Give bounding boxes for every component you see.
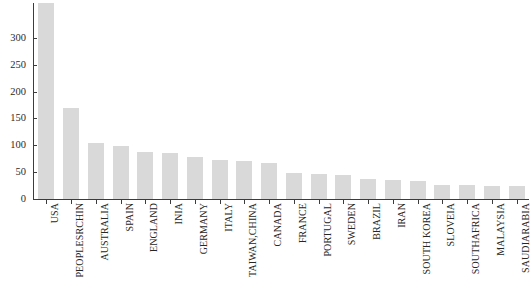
bar-chart-figure: 050100150200250300 USAPEOPLESRCHINAUSTRA… <box>0 0 532 297</box>
bar[interactable] <box>162 153 178 199</box>
bar-rect <box>162 153 178 199</box>
x-axis-label: SLOVEIA <box>446 203 456 246</box>
bar[interactable] <box>434 185 450 199</box>
x-axis-label-text: MALAYSIA <box>496 203 506 256</box>
y-tick-label: 250 <box>10 58 26 71</box>
x-axis-label-text: ITALY <box>224 203 234 232</box>
x-axis-label: TAIWAN,CHINA <box>248 203 258 277</box>
bar[interactable] <box>38 3 54 199</box>
x-axis-label-text: USA <box>50 203 60 223</box>
x-axis-label-text: SPAIN <box>125 203 135 231</box>
x-axis-label-text: SAUDIARABIA <box>521 203 531 273</box>
bar[interactable] <box>360 179 376 199</box>
bar[interactable] <box>286 173 302 199</box>
bar-rect <box>410 181 426 199</box>
bar-rect <box>88 143 104 199</box>
bar-rect <box>261 163 277 200</box>
bar-rect <box>459 185 475 199</box>
bar[interactable] <box>335 175 351 199</box>
x-axis-label: SAUDIARABIA <box>521 203 531 273</box>
x-axis-label-text: TAIWAN,CHINA <box>248 203 258 277</box>
bar[interactable] <box>509 186 525 199</box>
y-tick-label: 200 <box>10 85 26 98</box>
x-axis-label: SWEDEN <box>347 203 357 245</box>
x-axis-label-text: PORTUGAL <box>323 203 333 257</box>
x-axis-label-text: INIA <box>174 203 184 225</box>
bar-rect <box>434 185 450 199</box>
bar-rect <box>236 161 252 199</box>
x-axis-label: ENGLAND <box>149 203 159 252</box>
bar-rect <box>286 173 302 199</box>
bar-rect <box>484 186 500 199</box>
x-axis-label-text: CANADA <box>273 203 283 246</box>
x-axis-label-text: SOUTHAFRICA <box>471 203 481 274</box>
x-axis-label: CANADA <box>273 203 283 246</box>
bar-rect <box>113 146 129 199</box>
y-tick-label: 0 <box>21 192 26 205</box>
bar-rect <box>360 179 376 199</box>
x-axis-label-text: BRAZIL <box>372 203 382 240</box>
x-axis-label: AUSTRALIA <box>100 203 110 261</box>
bar[interactable] <box>311 174 327 199</box>
x-axis-label-text: SOUTH KOREA <box>422 203 432 274</box>
bar[interactable] <box>137 152 153 199</box>
x-axis-label-text: SWEDEN <box>347 203 357 245</box>
bar[interactable] <box>385 180 401 199</box>
x-axis-label: GERMANY <box>199 203 209 254</box>
x-axis-label-text: PEOPLESRCHIN <box>75 203 85 278</box>
x-axis-label: BRAZIL <box>372 203 382 240</box>
x-axis-label: PEOPLESRCHIN <box>75 203 85 278</box>
bars-layer <box>34 0 529 200</box>
bar-rect <box>187 157 203 199</box>
x-axis-label-text: IRAN <box>397 203 407 228</box>
x-axis-label: INIA <box>174 203 184 225</box>
x-axis-label: USA <box>50 203 60 223</box>
bar[interactable] <box>212 160 228 199</box>
bar-rect <box>335 175 351 199</box>
y-tick-label: 300 <box>10 31 26 44</box>
x-axis-label-text: ENGLAND <box>149 203 159 252</box>
bar[interactable] <box>459 185 475 199</box>
x-axis-label: SOUTH KOREA <box>422 203 432 274</box>
bar[interactable] <box>88 143 104 199</box>
bar-rect <box>385 180 401 199</box>
x-axis-label: SPAIN <box>125 203 135 231</box>
x-axis-label-text: GERMANY <box>199 203 209 254</box>
y-tick-label: 150 <box>10 111 26 124</box>
x-axis-label: MALAYSIA <box>496 203 506 256</box>
bar-rect <box>38 3 54 199</box>
bar[interactable] <box>113 146 129 199</box>
y-tick-label: 50 <box>16 165 27 178</box>
x-axis-label-text: AUSTRALIA <box>100 203 110 261</box>
bar-rect <box>137 152 153 199</box>
bar-rect <box>212 160 228 199</box>
bar[interactable] <box>236 161 252 199</box>
x-axis-label-text: SLOVEIA <box>446 203 456 246</box>
x-axis-label: PORTUGAL <box>323 203 333 257</box>
x-axis-label: FRANCE <box>298 203 308 243</box>
bar[interactable] <box>484 186 500 199</box>
x-axis-label-text: FRANCE <box>298 203 308 243</box>
y-tick-label: 100 <box>10 138 26 151</box>
x-axis-label: SOUTHAFRICA <box>471 203 481 274</box>
bar[interactable] <box>261 163 277 200</box>
bar[interactable] <box>63 108 79 199</box>
bar[interactable] <box>187 157 203 199</box>
bar-rect <box>311 174 327 199</box>
bar-rect <box>63 108 79 199</box>
bar[interactable] <box>410 181 426 199</box>
x-axis-category-labels: USAPEOPLESRCHINAUSTRALIASPAINENGLANDINIA… <box>34 203 529 295</box>
x-axis-label: ITALY <box>224 203 234 232</box>
bar-rect <box>509 186 525 199</box>
x-axis-label: IRAN <box>397 203 407 228</box>
